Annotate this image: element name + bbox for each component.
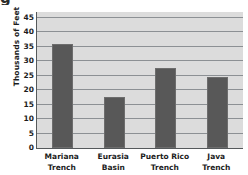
x-tick-label-line: Trench <box>191 163 243 174</box>
x-tick-label: EurasiaBasin <box>88 152 140 173</box>
x-tick-label: Puerto RicoTrench <box>139 152 191 173</box>
y-tick-label: 45 <box>16 14 34 22</box>
gridline <box>37 17 243 18</box>
gridline <box>37 31 243 32</box>
x-tick-label: MarianaTrench <box>36 152 88 173</box>
plot-area <box>36 12 243 149</box>
bar <box>207 77 228 148</box>
bar <box>155 68 176 148</box>
y-tick-label: 5 <box>16 130 34 138</box>
x-axis-tick-labels: MarianaTrenchEurasiaBasinPuerto RicoTren… <box>36 152 244 175</box>
x-tick-label-line: Java <box>191 152 243 163</box>
x-tick-label-line: Basin <box>88 163 140 174</box>
y-axis-tick-labels: 051015202530354045 <box>16 12 34 152</box>
x-tick-label-line: Eurasia <box>88 152 140 163</box>
bar <box>104 97 125 148</box>
bar-chart-figure: g Thousands of Feet 051015202530354045 M… <box>0 0 248 175</box>
x-tick-label-line: Trench <box>139 163 191 174</box>
y-tick-label: 15 <box>16 101 34 109</box>
x-tick-label-line: Mariana <box>36 152 88 163</box>
y-tick-label: 0 <box>16 144 34 152</box>
y-tick-label: 40 <box>16 28 34 36</box>
x-tick-label: JavaTrench <box>191 152 243 173</box>
x-tick-label-line: Puerto Rico <box>139 152 191 163</box>
y-tick-label: 30 <box>16 57 34 65</box>
y-tick-label: 10 <box>16 115 34 123</box>
y-tick-label: 20 <box>16 86 34 94</box>
x-tick-label-line: Trench <box>36 163 88 174</box>
bar <box>52 44 73 148</box>
y-tick-label: 35 <box>16 43 34 51</box>
y-tick-label: 25 <box>16 72 34 80</box>
